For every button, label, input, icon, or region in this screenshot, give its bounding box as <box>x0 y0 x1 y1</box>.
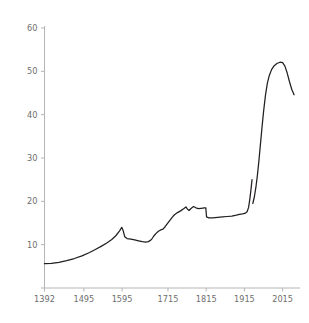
series-line-segment-2 <box>253 62 294 203</box>
y-tick-label: 60 <box>27 23 37 33</box>
y-tick-label: 30 <box>27 153 37 163</box>
chart-container: 102030405060 139214951595171518151915201… <box>0 0 309 323</box>
x-tick-label: 2015 <box>272 294 293 304</box>
x-axis: 1392149515951715181519152015 <box>34 288 300 304</box>
x-tick-label: 1595 <box>112 294 133 304</box>
y-tick-label: 50 <box>27 66 37 76</box>
series-line-segment-1 <box>45 180 253 264</box>
x-tick-label: 1815 <box>196 294 217 304</box>
x-tick-label: 1915 <box>234 294 255 304</box>
x-tick-label: 1392 <box>34 294 55 304</box>
y-axis: 102030405060 <box>27 23 44 288</box>
data-series <box>45 62 295 264</box>
x-tick-label: 1495 <box>73 294 94 304</box>
y-tick-label: 20 <box>27 196 37 206</box>
y-tick-label: 10 <box>27 240 37 250</box>
line-chart: 102030405060 139214951595171518151915201… <box>0 0 309 323</box>
y-tick-label: 40 <box>27 110 37 120</box>
x-tick-label: 1715 <box>158 294 179 304</box>
